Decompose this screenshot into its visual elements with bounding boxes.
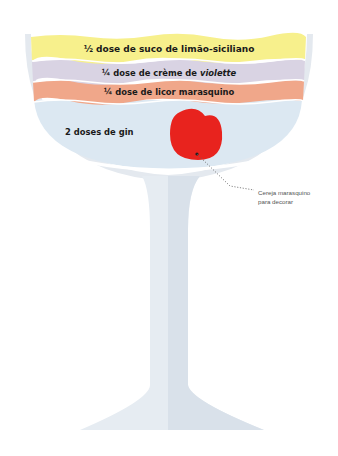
callout-line2: para decorar bbox=[258, 197, 310, 206]
gin-label: 2 doses de gin bbox=[65, 127, 133, 137]
lemon-juice-label: ½ dose de suco de limão-siciliano bbox=[0, 44, 338, 54]
violette-label-prefix: ¼ dose de crème de bbox=[102, 68, 200, 78]
cherry-callout: Cereja marasquino para decorar bbox=[258, 188, 310, 206]
cocktail-diagram: ½ dose de suco de limão-siciliano ¼ dose… bbox=[0, 0, 338, 456]
cherry bbox=[170, 109, 222, 160]
violette-label-italic: violette bbox=[200, 68, 236, 78]
callout-line1: Cereja marasquino bbox=[258, 188, 310, 197]
violette-label: ¼ dose de crème de violette bbox=[0, 68, 338, 78]
marasquino-label: ¼ dose de licor marasquino bbox=[0, 87, 338, 97]
glass-stem-shadow bbox=[168, 176, 264, 430]
